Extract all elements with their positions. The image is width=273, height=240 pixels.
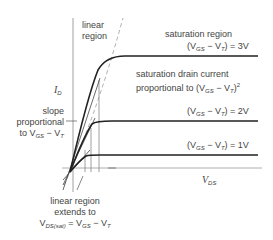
s1: DS(sat) <box>45 223 65 229</box>
slope-line2: proportional <box>0 117 64 128</box>
id-sub: D <box>57 90 61 96</box>
s2: T <box>60 133 64 139</box>
lp: (V <box>187 41 196 51</box>
lpost: ) = 2V <box>225 106 249 116</box>
linear-region-line2: region <box>82 31 107 42</box>
curve-1v <box>70 155 258 172</box>
linear-region-label: linear region <box>82 20 107 42</box>
lpost: ) = 3V <box>225 41 249 51</box>
sq: 2 <box>237 82 240 88</box>
lm: − V <box>205 106 221 116</box>
le-line3: VDS(sat) = VGS − VT <box>20 218 130 232</box>
vds-sub: DS <box>208 180 216 186</box>
linear-region-line1: linear <box>82 20 107 31</box>
y-axis-label: ID <box>54 84 62 99</box>
linear-extent-pointer <box>77 176 83 190</box>
slope-line3: to VGS − VT <box>0 128 64 142</box>
lm: − V <box>205 41 221 51</box>
ls1: GS <box>196 46 205 52</box>
lp: (V <box>187 106 196 116</box>
s2: GS <box>82 223 91 229</box>
ls1: GS <box>196 111 205 117</box>
slope-note: slope proportional to VGS − VT <box>0 106 64 142</box>
le-line1: linear region <box>20 196 130 207</box>
m: − V <box>214 83 230 93</box>
curve-label-1v: (VGS − VT) = 1V <box>187 140 249 154</box>
saturation-region-label: saturation region <box>165 29 232 40</box>
ls1: GS <box>196 145 205 151</box>
le-line2: extends to <box>20 207 130 218</box>
s3: T <box>107 223 111 229</box>
slope-line1: slope <box>0 106 64 117</box>
m: = V <box>66 218 82 228</box>
lpost: ) = 1V <box>225 140 249 150</box>
sat-note-line1: saturation drain current <box>136 69 240 80</box>
mosfet-characteristics-diagram: linear region ID saturation region (VGS … <box>0 0 273 240</box>
s1: GS <box>205 88 214 94</box>
m2: − V <box>91 218 107 228</box>
curve-label-3v: (VGS − VT) = 3V <box>187 41 249 55</box>
sat-note-line2: proportional to (VGS − VT)2 <box>136 80 240 97</box>
p: proportional to (V <box>136 83 205 93</box>
saturation-current-note: saturation drain current proportional to… <box>136 69 240 97</box>
m: − V <box>44 128 60 138</box>
p: to V <box>19 128 35 138</box>
lp: (V <box>187 140 196 150</box>
curve-label-2v: (VGS − VT) = 2V <box>187 106 249 120</box>
lm: − V <box>205 140 221 150</box>
s1: GS <box>35 133 44 139</box>
x-axis-label: VDS <box>202 174 216 189</box>
linear-extent-note: linear region extends to VDS(sat) = VGS … <box>20 196 130 232</box>
